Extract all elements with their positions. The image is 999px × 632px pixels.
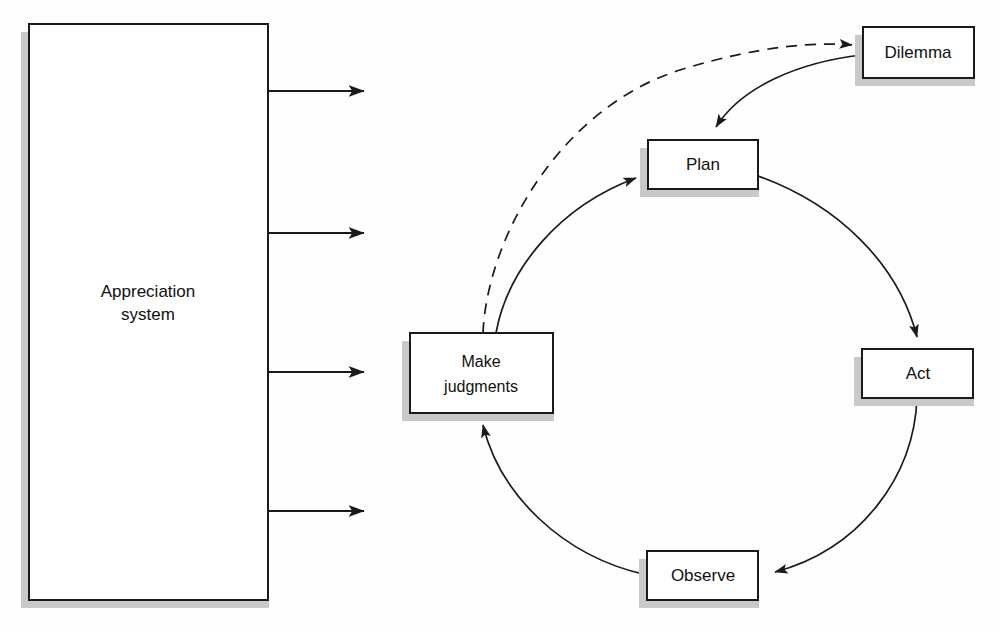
act-label: Act bbox=[906, 364, 931, 383]
appreciation-system-box[interactable]: Appreciation system bbox=[21, 24, 269, 608]
connector-observe-to-judgments bbox=[483, 425, 647, 575]
node-dilemma[interactable]: Dilemma bbox=[855, 27, 975, 86]
node-make-judgments[interactable]: Make judgments bbox=[402, 333, 554, 421]
appreciation-system-label-line1: Appreciation bbox=[101, 282, 196, 301]
plan-label: Plan bbox=[686, 155, 720, 174]
connector-act-to-observe bbox=[775, 398, 917, 572]
dilemma-label: Dilemma bbox=[884, 43, 952, 62]
make-judgments-label-line2: judgments bbox=[443, 378, 518, 395]
make-judgments-label-line1: Make bbox=[461, 353, 500, 370]
node-act[interactable]: Act bbox=[854, 349, 974, 406]
node-plan[interactable]: Plan bbox=[640, 140, 759, 197]
connector-dilemma-to-plan bbox=[716, 55, 862, 127]
connector-judgments-to-plan bbox=[496, 178, 636, 333]
connector-plan-to-act bbox=[758, 176, 917, 337]
diagram-canvas: Appreciation system bbox=[0, 0, 999, 632]
node-observe[interactable]: Observe bbox=[639, 551, 759, 608]
diagram-svg: Appreciation system bbox=[0, 0, 999, 632]
appreciation-system-label-line2: system bbox=[121, 305, 175, 324]
observe-label: Observe bbox=[671, 566, 735, 585]
make-judgments-rect bbox=[410, 333, 553, 413]
